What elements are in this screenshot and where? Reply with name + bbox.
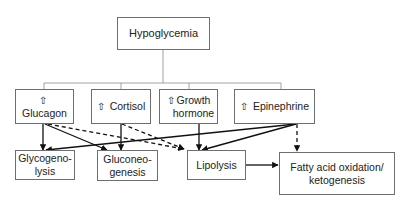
glucagon-to-lipolysis-arrow bbox=[48, 124, 184, 149]
fatty-acid-label-line2: ketogenesis bbox=[290, 174, 383, 187]
glucagon-box: ⇧ Glucagon bbox=[15, 89, 74, 124]
cortisol-label: Cortisol bbox=[110, 100, 146, 112]
growth-hormone-box: ⇧Growth hormone bbox=[159, 89, 218, 124]
epinephrine-box: ⇧ Epinephrine bbox=[234, 89, 315, 124]
epinephrine-to-lipolysis-arrow bbox=[202, 124, 296, 150]
up-arrow-icon: ⇧ bbox=[167, 94, 175, 107]
solid-arrows bbox=[43, 124, 296, 165]
glucagon-to-gluconeogenesis-arrow bbox=[45, 124, 107, 150]
lipolysis-label: Lipolysis bbox=[196, 159, 236, 172]
hormone-label: hormone bbox=[163, 107, 214, 120]
gluconeogenesis-label-line1: Gluconeo- bbox=[103, 153, 151, 166]
glycogenolysis-box: Glycogeno- lysis bbox=[15, 150, 75, 180]
hypoglycemia-label: Hypoglycemia bbox=[129, 27, 198, 40]
glycogenolysis-label-line2: lysis bbox=[18, 165, 72, 178]
growth-label: Growth bbox=[177, 94, 211, 106]
gluconeogenesis-label-line2: genesis bbox=[103, 166, 151, 179]
epinephrine-label: Epinephrine bbox=[253, 100, 309, 112]
cortisol-box: ⇧ Cortisol bbox=[91, 89, 151, 124]
gluconeogenesis-box: Gluconeo- genesis bbox=[97, 150, 158, 181]
up-arrow-icon: ⇧ bbox=[39, 94, 47, 107]
epinephrine-to-glycogenolysis-arrow bbox=[46, 124, 296, 150]
fatty-acid-label-line1: Fatty acid oxidation/ bbox=[290, 161, 383, 174]
up-arrow-icon: ⇧ bbox=[240, 100, 248, 113]
glycogenolysis-label-line1: Glycogeno- bbox=[18, 152, 72, 165]
glucagon-label: Glucagon bbox=[22, 107, 67, 120]
hierarchy-lines bbox=[44, 50, 281, 89]
up-arrow-icon: ⇧ bbox=[97, 100, 105, 113]
fatty-acid-oxidation-box: Fatty acid oxidation/ ketogenesis bbox=[279, 152, 395, 195]
lipolysis-box: Lipolysis bbox=[187, 150, 246, 180]
hypoglycemia-box: Hypoglycemia bbox=[117, 17, 210, 50]
